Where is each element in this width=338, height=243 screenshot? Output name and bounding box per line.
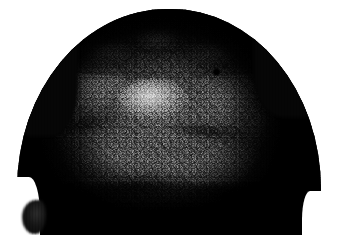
page-margin-left xyxy=(0,0,17,243)
page-margin-top xyxy=(0,0,338,9)
notch-lower-right xyxy=(304,191,320,217)
lower-hair-shadow xyxy=(17,185,321,235)
clinical-photograph-figure: Grayscale close-up clinical photograph o… xyxy=(0,0,338,243)
page-margin-right xyxy=(321,0,338,243)
ear-protrusion-lower-left xyxy=(22,200,46,234)
photograph-plate xyxy=(0,0,338,243)
page-margin-bottom xyxy=(0,235,338,243)
